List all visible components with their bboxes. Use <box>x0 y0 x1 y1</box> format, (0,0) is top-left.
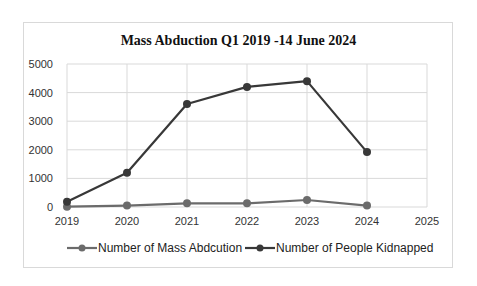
y-tick-label: 5000 <box>29 58 53 70</box>
y-tick-label: 3000 <box>29 115 53 127</box>
data-point-marker <box>303 196 311 204</box>
x-tick-label: 2024 <box>355 215 379 227</box>
data-point-marker <box>243 83 251 91</box>
legend: Number of Mass Abdcution Number of Peopl… <box>0 241 477 257</box>
legend-label: Number of Mass Abdcution <box>98 241 242 255</box>
legend-item-people-kidnapped: Number of People Kidnapped <box>245 241 433 255</box>
data-point-marker <box>183 199 191 207</box>
line-marker-icon <box>245 242 275 254</box>
legend-label: Number of People Kidnapped <box>276 241 433 255</box>
x-tick-label: 2021 <box>175 215 199 227</box>
legend-item-mass-abduction: Number of Mass Abdcution <box>67 241 242 255</box>
line-marker-icon <box>67 242 97 254</box>
data-point-marker <box>183 100 191 108</box>
data-point-marker <box>243 199 251 207</box>
y-tick-label: 0 <box>47 201 53 213</box>
data-point-marker <box>63 198 71 206</box>
x-tick-label: 2020 <box>115 215 139 227</box>
series-line-0 <box>67 200 367 207</box>
data-point-marker <box>363 148 371 156</box>
x-tick-label: 2019 <box>55 215 79 227</box>
x-tick-label: 2025 <box>415 215 439 227</box>
y-tick-label: 2000 <box>29 144 53 156</box>
data-point-marker <box>123 169 131 177</box>
y-tick-label: 1000 <box>29 172 53 184</box>
x-tick-label: 2022 <box>235 215 259 227</box>
data-point-marker <box>363 202 371 210</box>
series-line-1 <box>67 81 367 202</box>
data-point-marker <box>303 77 311 85</box>
y-tick-label: 4000 <box>29 87 53 99</box>
data-point-marker <box>123 202 131 210</box>
x-tick-label: 2023 <box>295 215 319 227</box>
